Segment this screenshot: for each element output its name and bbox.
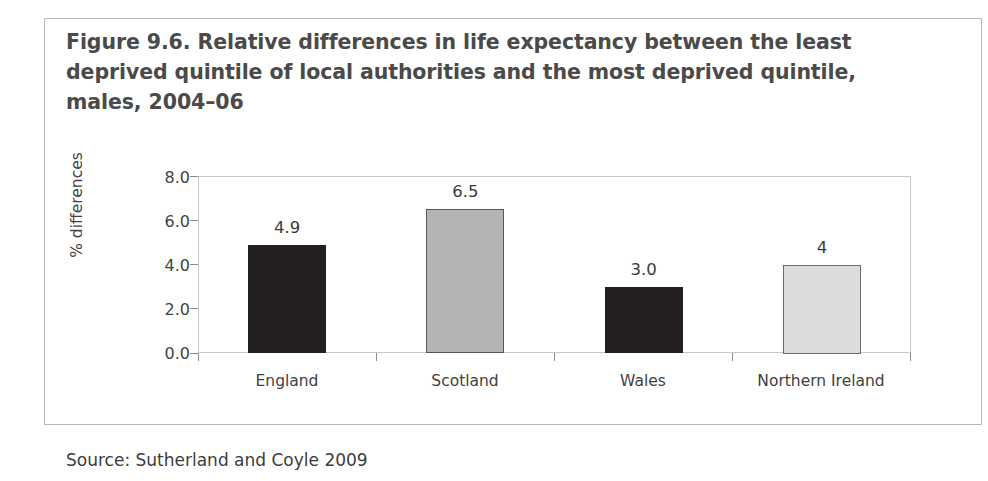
- value-label-northern-ireland: 4: [762, 239, 882, 257]
- y-tick-mark-6: [190, 220, 198, 221]
- y-axis-tick-labels: 8.0 6.0 4.0 2.0 0.0: [140, 0, 190, 481]
- bar-scotland[interactable]: [426, 209, 504, 353]
- y-tick-mark-8: [190, 176, 198, 177]
- source-note: Source: Sutherland and Coyle 2009: [66, 450, 368, 470]
- y-tick-label-4: 4.0: [144, 258, 190, 274]
- x-tick-mark-2: [554, 353, 555, 361]
- x-axis-label-wales: Wales: [554, 372, 732, 390]
- figure-title: Figure 9.6. Relative differences in life…: [66, 27, 916, 117]
- x-tick-mark-4: [910, 353, 911, 361]
- y-tick-mark-4: [190, 264, 198, 265]
- y-tick-label-0: 0.0: [144, 346, 190, 362]
- bar-northern-ireland[interactable]: [783, 265, 861, 354]
- y-tick-label-8: 8.0: [144, 170, 190, 186]
- y-axis-title: % differences: [68, 125, 86, 285]
- x-tick-mark-1: [376, 353, 377, 361]
- x-tick-mark-0: [198, 353, 199, 361]
- x-axis-label-england: England: [198, 372, 376, 390]
- value-label-england: 4.9: [227, 219, 347, 237]
- bar-wales[interactable]: [605, 287, 683, 353]
- y-tick-label-6: 6.0: [144, 214, 190, 230]
- x-tick-mark-3: [732, 353, 733, 361]
- y-tick-label-2: 2.0: [144, 302, 190, 318]
- figure-page: Figure 9.6. Relative differences in life…: [0, 0, 988, 481]
- x-axis-label-northern-ireland: Northern Ireland: [732, 372, 910, 390]
- x-axis-label-scotland: Scotland: [376, 372, 554, 390]
- value-label-scotland: 6.5: [405, 183, 525, 201]
- bar-england[interactable]: [248, 245, 326, 353]
- value-label-wales: 3.0: [584, 261, 704, 279]
- y-tick-mark-2: [190, 308, 198, 309]
- y-tick-mark-0: [190, 353, 198, 354]
